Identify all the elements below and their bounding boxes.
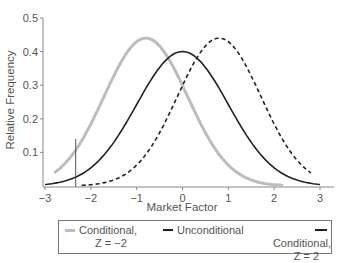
- legend-item-unconditional: Unconditional: [163, 224, 244, 237]
- legend-label-sub: Z = 2: [294, 250, 331, 262]
- series-line-0: [54, 38, 283, 185]
- x-axis-title: Market Factor: [147, 201, 218, 213]
- legend-item-conditional-pos2: Conditional, Z = 2: [257, 224, 331, 263]
- x-tick-label: −1: [130, 192, 143, 204]
- legend-label: Conditional,: [273, 237, 331, 249]
- y-tick-label: 0.3: [23, 79, 38, 91]
- x-tick-label: 3: [317, 192, 323, 204]
- x-tick-label: −2: [85, 192, 98, 204]
- legend-item-conditional-neg2: Conditional, Z = −2: [65, 224, 137, 250]
- x-tick-label: 2: [271, 192, 277, 204]
- line-chart: 0.10.20.30.40.5−3−2−10123 Market Factor …: [0, 0, 347, 215]
- y-tick-label: 0.5: [23, 12, 38, 24]
- legend-label: Conditional,: [79, 224, 137, 236]
- series-group: [45, 38, 320, 187]
- series-line-1: [45, 52, 320, 185]
- legend-label: Unconditional: [177, 224, 244, 236]
- dashed-line-swatch-icon: [315, 229, 327, 231]
- x-tick-label: 1: [225, 192, 231, 204]
- gray-line-swatch-icon: [65, 229, 75, 232]
- x-tick-label: −3: [39, 192, 52, 204]
- y-axis-title: Relative Frequency: [4, 50, 16, 149]
- axes: 0.10.20.30.40.5−3−2−10123: [23, 12, 334, 204]
- legend-label-sub: Z = −2: [65, 237, 127, 249]
- y-tick-label: 0.2: [23, 113, 38, 125]
- black-line-swatch-icon: [163, 229, 173, 231]
- y-tick-label: 0.4: [23, 46, 38, 58]
- legend: Conditional, Z = −2 Unconditional Condit…: [58, 220, 332, 254]
- y-tick-label: 0.1: [23, 146, 38, 158]
